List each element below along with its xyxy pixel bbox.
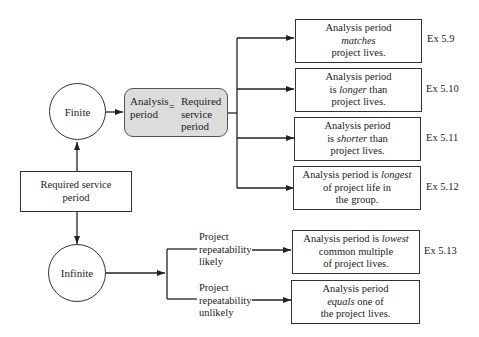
equation-left-line2: period bbox=[130, 108, 169, 121]
outcome-emphasis: matches bbox=[341, 35, 375, 48]
outcome-emphasis: shorter bbox=[337, 133, 367, 144]
example-ref: Ex 5.12 bbox=[426, 181, 459, 192]
outcome-text: project lives. bbox=[330, 145, 384, 158]
outcome-text: Analysis period is bbox=[303, 169, 381, 180]
required-service-period-node: Required service period bbox=[20, 171, 132, 212]
outcome-text: Analysis period bbox=[325, 22, 391, 35]
condition-text: repeatability bbox=[199, 244, 251, 257]
outcome-text: Analysis period bbox=[324, 120, 390, 133]
condition-text: Project bbox=[199, 231, 251, 244]
outcome-text: the group. bbox=[336, 194, 379, 207]
outcome-text: Analysis period is bbox=[303, 233, 381, 244]
example-ref: Ex 5.9 bbox=[427, 33, 454, 44]
equation-right-line2: service bbox=[181, 108, 221, 121]
required-service-line1: Required service bbox=[41, 179, 112, 192]
condition-text: likely bbox=[199, 256, 251, 269]
outcome-longer: Analysis period is longer than project l… bbox=[295, 68, 422, 112]
required-service-line2: period bbox=[63, 192, 90, 205]
outcome-line2: is shorter than bbox=[327, 133, 388, 146]
outcome-text: Analysis period bbox=[322, 283, 388, 296]
outcome-line2: equals one of bbox=[327, 296, 384, 309]
outcome-text: is bbox=[330, 84, 340, 95]
outcome-matches: Analysis period matches project lives. bbox=[295, 19, 422, 63]
equation-left-line1: Analysis bbox=[130, 95, 169, 108]
infinite-node: Infinite bbox=[48, 244, 106, 302]
outcome-text: than bbox=[367, 84, 388, 95]
condition-unlikely: Project repeatability unlikely bbox=[199, 282, 251, 320]
analysis-equals-service-node: Analysis period = Required service perio… bbox=[124, 88, 228, 137]
outcome-lowest-common-multiple: Analysis period is lowest common multipl… bbox=[292, 230, 420, 274]
outcome-emphasis: longer bbox=[339, 84, 366, 95]
example-ref: Ex 5.11 bbox=[426, 132, 458, 143]
outcome-text: one of bbox=[355, 296, 384, 307]
infinite-label: Infinite bbox=[61, 267, 93, 279]
outcome-longest: Analysis period is longest of project li… bbox=[293, 166, 421, 210]
outcome-text: common multiple bbox=[319, 246, 393, 259]
outcome-text: the project lives. bbox=[321, 308, 391, 321]
outcome-emphasis: lowest bbox=[382, 233, 409, 244]
condition-text: unlikely bbox=[199, 307, 251, 320]
outcome-text: Analysis period bbox=[325, 71, 391, 84]
outcome-shorter: Analysis period is shorter than project … bbox=[294, 117, 421, 161]
example-ref: Ex 5.13 bbox=[424, 245, 457, 256]
condition-likely: Project repeatability likely bbox=[199, 231, 251, 269]
outcome-text: of project life in bbox=[323, 182, 391, 195]
equation-right-line3: period bbox=[181, 120, 221, 133]
outcome-text: project lives. bbox=[331, 96, 385, 109]
outcome-line1: Analysis period is lowest bbox=[303, 233, 408, 246]
equation-right-line1: Required bbox=[181, 95, 221, 108]
example-ref: Ex 5.10 bbox=[426, 83, 459, 94]
outcome-emphasis: equals bbox=[327, 296, 354, 307]
finite-label: Finite bbox=[65, 106, 91, 118]
outcome-text: project lives. bbox=[331, 47, 385, 60]
outcome-line2: is longer than bbox=[330, 84, 388, 97]
condition-text: Project bbox=[199, 282, 251, 295]
outcome-text: than bbox=[367, 133, 388, 144]
outcome-equals-one: Analysis period equals one of the projec… bbox=[291, 280, 420, 324]
outcome-line1: Analysis period is longest bbox=[303, 169, 412, 182]
condition-text: repeatability bbox=[199, 295, 251, 308]
finite-node: Finite bbox=[49, 83, 106, 140]
equals-sign: = bbox=[169, 101, 175, 114]
outcome-text: is bbox=[327, 133, 337, 144]
outcome-emphasis: longest bbox=[381, 169, 411, 180]
outcome-text: of project lives. bbox=[323, 258, 389, 271]
